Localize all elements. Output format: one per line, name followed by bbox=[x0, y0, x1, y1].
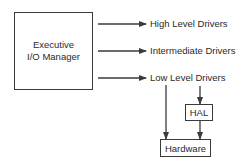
intermediate-drivers-label: Intermediate Drivers bbox=[150, 45, 236, 56]
high-level-drivers-label: High Level Drivers bbox=[150, 18, 228, 29]
hardware-label: Hardware bbox=[165, 143, 206, 154]
manager-label-line1: Executive bbox=[27, 39, 80, 51]
manager-label-line2: I/O Manager bbox=[27, 51, 80, 63]
hal-box: HAL bbox=[185, 104, 213, 121]
hal-label: HAL bbox=[190, 107, 208, 118]
hardware-box: Hardware bbox=[160, 139, 211, 157]
low-level-drivers-label: Low Level Drivers bbox=[150, 72, 226, 83]
executive-io-manager-box: Executive I/O Manager bbox=[14, 12, 93, 90]
